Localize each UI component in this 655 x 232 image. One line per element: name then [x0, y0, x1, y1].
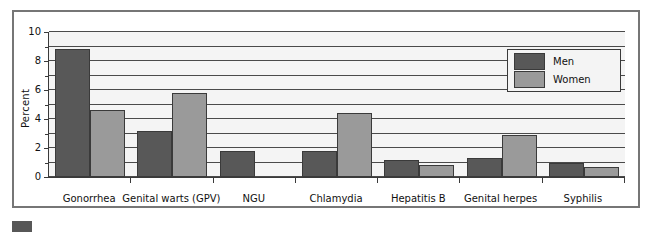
bar-women-chlamydia [337, 113, 372, 177]
x-axis-category-label: NGU [242, 193, 265, 204]
bar-men-genital-warts-gpv [137, 131, 172, 177]
bar-women-genital-herpes [502, 135, 537, 177]
bar-men-chlamydia [302, 151, 337, 177]
x-axis-tick [542, 178, 543, 183]
legend-label: Women [553, 74, 591, 85]
bar-women-syphilis [584, 167, 619, 177]
x-axis-tick [213, 178, 214, 183]
x-axis-category-label: Syphilis [564, 193, 603, 204]
x-axis-tick [459, 178, 460, 183]
women-swatch-icon [514, 71, 545, 88]
y-axis-title: Percent [18, 68, 34, 148]
bar-women-hepatitis-b [419, 165, 454, 177]
bar-women-genital-warts-gpv [172, 93, 207, 177]
men-swatch-icon [514, 53, 545, 70]
x-axis-category-label: Hepatitis B [391, 193, 446, 204]
x-axis-tick [377, 178, 378, 183]
bar-women-gonorrhea [90, 110, 125, 177]
x-axis-category-label: Chlamydia [309, 193, 362, 204]
y-axis-tick-label: 4 [15, 114, 41, 124]
x-axis-category-label: Genital warts (GPV) [122, 193, 220, 204]
corner-artifact-swatch [12, 221, 32, 232]
bar-men-gonorrhea [55, 49, 90, 177]
y-axis-tick-label: 0 [15, 172, 41, 182]
bar-men-genital-herpes [467, 158, 502, 177]
chart-legend: MenWomen [507, 49, 621, 92]
bar-men-hepatitis-b [384, 160, 419, 177]
bar-men-syphilis [549, 163, 584, 177]
chart-figure-frame: Percent 0246810 GonorrheaGenital warts (… [12, 10, 640, 208]
x-axis-tick [130, 178, 131, 183]
y-axis-tick-label: 6 [15, 85, 41, 95]
bar-chart: Percent 0246810 GonorrheaGenital warts (… [14, 12, 638, 206]
y-axis-tick-label: 8 [15, 56, 41, 66]
x-axis-category-label: Genital herpes [464, 193, 537, 204]
x-axis-tick [624, 178, 625, 183]
y-axis-tick-label: 10 [15, 27, 41, 37]
legend-label: Men [553, 56, 574, 67]
x-axis-category-label: Gonorrhea [63, 193, 116, 204]
bar-men-ngu [220, 151, 255, 177]
x-axis-tick [295, 178, 296, 183]
y-axis-tick-label: 2 [15, 143, 41, 153]
